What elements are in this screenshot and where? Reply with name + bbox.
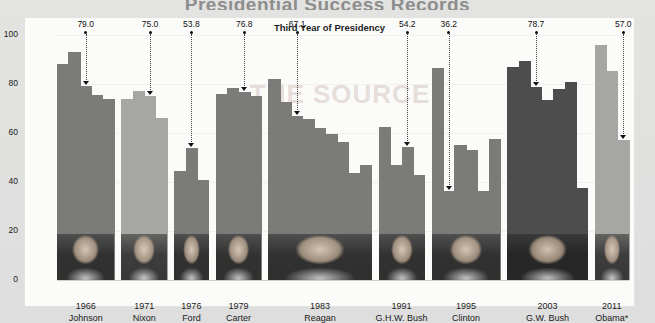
value-callout-label: 78.7 bbox=[516, 19, 556, 29]
bar[interactable] bbox=[618, 140, 630, 280]
bar[interactable] bbox=[227, 88, 239, 280]
value-callout-label: 79.0 bbox=[66, 19, 106, 29]
y-tick-label-60: 60 bbox=[0, 127, 18, 137]
bar[interactable] bbox=[133, 91, 145, 280]
bar[interactable] bbox=[326, 134, 338, 280]
value-callout-label: 67.1 bbox=[277, 19, 317, 29]
value-callout-stem bbox=[297, 34, 298, 112]
chart-panel: Third Year of Presidency THE SOURCE Perc… bbox=[25, 18, 634, 306]
bar[interactable] bbox=[349, 173, 361, 280]
bar[interactable] bbox=[186, 148, 198, 280]
bar[interactable] bbox=[280, 102, 292, 280]
value-callout-arrow bbox=[83, 81, 89, 85]
bar[interactable] bbox=[413, 175, 425, 280]
value-callout-label: 76.8 bbox=[224, 19, 264, 29]
value-callout-label: 54.2 bbox=[387, 19, 427, 29]
bar-group-clinton[interactable] bbox=[432, 35, 501, 280]
bar-group-g-w-bush[interactable] bbox=[507, 35, 587, 280]
bar[interactable] bbox=[268, 79, 280, 280]
bar[interactable] bbox=[606, 71, 618, 280]
bar[interactable] bbox=[103, 99, 115, 280]
bar[interactable] bbox=[239, 92, 251, 280]
bar-group-nixon[interactable] bbox=[121, 35, 167, 280]
x-category-label: 1983Reagan bbox=[256, 301, 383, 323]
bar[interactable] bbox=[454, 145, 466, 280]
bar[interactable] bbox=[595, 45, 607, 280]
bar[interactable] bbox=[477, 191, 489, 280]
bar[interactable] bbox=[80, 86, 92, 280]
bar[interactable] bbox=[565, 82, 577, 280]
bar[interactable] bbox=[303, 119, 315, 280]
value-callout-stem bbox=[449, 34, 450, 187]
value-callout-label: 53.8 bbox=[171, 19, 211, 29]
x-category-year: 1983 bbox=[256, 301, 383, 313]
y-tick-label-100: 100 bbox=[0, 29, 18, 39]
value-callout-arrow bbox=[294, 111, 300, 115]
bar[interactable] bbox=[291, 116, 303, 280]
value-callout-arrow bbox=[446, 186, 452, 190]
bar-group-carter[interactable] bbox=[216, 35, 262, 280]
y-tick-label-20: 20 bbox=[0, 225, 18, 235]
y-tick-label-0: 0 bbox=[0, 274, 18, 284]
value-callout-stem bbox=[244, 34, 245, 88]
value-callout-label: 75.0 bbox=[130, 19, 170, 29]
x-category-label: 2011Obama* bbox=[583, 301, 641, 323]
bar[interactable] bbox=[466, 150, 478, 280]
value-callout-stem bbox=[191, 34, 192, 144]
value-callout-stem bbox=[150, 34, 151, 92]
bar[interactable] bbox=[156, 118, 168, 280]
value-callout-stem bbox=[623, 34, 624, 136]
bar[interactable] bbox=[542, 100, 554, 280]
bar-group-reagan[interactable] bbox=[268, 35, 371, 280]
value-callout-arrow bbox=[241, 87, 247, 91]
bar[interactable] bbox=[519, 61, 531, 280]
bar[interactable] bbox=[576, 188, 588, 280]
bar[interactable] bbox=[530, 87, 542, 280]
bar[interactable] bbox=[91, 95, 103, 280]
bar[interactable] bbox=[216, 94, 228, 280]
chart-title: Presidential Success Records bbox=[0, 0, 655, 10]
bar[interactable] bbox=[337, 142, 349, 280]
x-category-name: Obama* bbox=[583, 313, 641, 323]
bar[interactable] bbox=[174, 171, 186, 280]
bar[interactable] bbox=[360, 165, 372, 280]
bar[interactable] bbox=[121, 99, 133, 280]
bar[interactable] bbox=[390, 165, 402, 280]
bar[interactable] bbox=[314, 128, 326, 280]
bar[interactable] bbox=[197, 180, 209, 280]
bar-group-g-h-w-bush[interactable] bbox=[379, 35, 425, 280]
gridline-0 bbox=[57, 280, 629, 281]
bar[interactable] bbox=[402, 147, 414, 280]
plot-area: 0204060801001966Johnson79.01971Nixon75.0… bbox=[57, 35, 629, 280]
bar[interactable] bbox=[379, 127, 391, 280]
x-category-name: Reagan bbox=[256, 313, 383, 323]
value-callout-stem bbox=[86, 34, 87, 82]
y-tick-label-80: 80 bbox=[0, 78, 18, 88]
bar[interactable] bbox=[553, 89, 565, 280]
bar[interactable] bbox=[507, 67, 519, 280]
value-callout-arrow bbox=[620, 135, 626, 139]
bar[interactable] bbox=[489, 139, 501, 280]
value-callout-arrow bbox=[404, 142, 410, 146]
bar[interactable] bbox=[443, 191, 455, 280]
value-callout-stem bbox=[536, 34, 537, 83]
bar[interactable] bbox=[68, 52, 80, 280]
value-callout-arrow bbox=[188, 143, 194, 147]
bar[interactable] bbox=[144, 96, 156, 280]
y-tick-label-40: 40 bbox=[0, 176, 18, 186]
value-callout-label: 36.2 bbox=[429, 19, 469, 29]
bar[interactable] bbox=[250, 96, 262, 280]
bar[interactable] bbox=[57, 64, 69, 280]
bar[interactable] bbox=[432, 68, 444, 280]
value-callout-arrow bbox=[147, 91, 153, 95]
x-category-year: 2011 bbox=[583, 301, 641, 313]
value-callout-label: 57.0 bbox=[603, 19, 643, 29]
value-callout-arrow bbox=[533, 82, 539, 86]
value-callout-stem bbox=[407, 34, 408, 143]
